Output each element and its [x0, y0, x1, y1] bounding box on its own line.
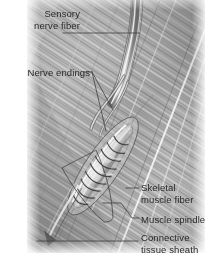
- label-skeletal-muscle-fiber-line1: Skeletal: [141, 182, 215, 194]
- label-skeletal-muscle-fiber: Skeletal muscle fiber: [141, 182, 215, 205]
- label-connective-tissue-sheath-line2: tissue sheath: [141, 244, 215, 256]
- label-skeletal-muscle-fiber-line2: muscle fiber: [141, 194, 215, 206]
- label-connective-tissue-sheath: Connective tissue sheath: [141, 232, 215, 255]
- muscle-spindle-figure: [0, 0, 216, 268]
- label-sensory-nerve-fiber-line1: Sensory: [6, 8, 80, 20]
- label-nerve-endings-text: Nerve endings: [6, 67, 90, 79]
- label-nerve-endings: Nerve endings: [6, 67, 90, 79]
- label-muscle-spindle-text: Muscle spindle: [141, 214, 215, 226]
- label-connective-tissue-sheath-line1: Connective: [141, 232, 215, 244]
- label-muscle-spindle: Muscle spindle: [141, 214, 215, 226]
- label-sensory-nerve-fiber: Sensory nerve fiber: [6, 8, 80, 31]
- label-sensory-nerve-fiber-line2: nerve fiber: [6, 20, 80, 32]
